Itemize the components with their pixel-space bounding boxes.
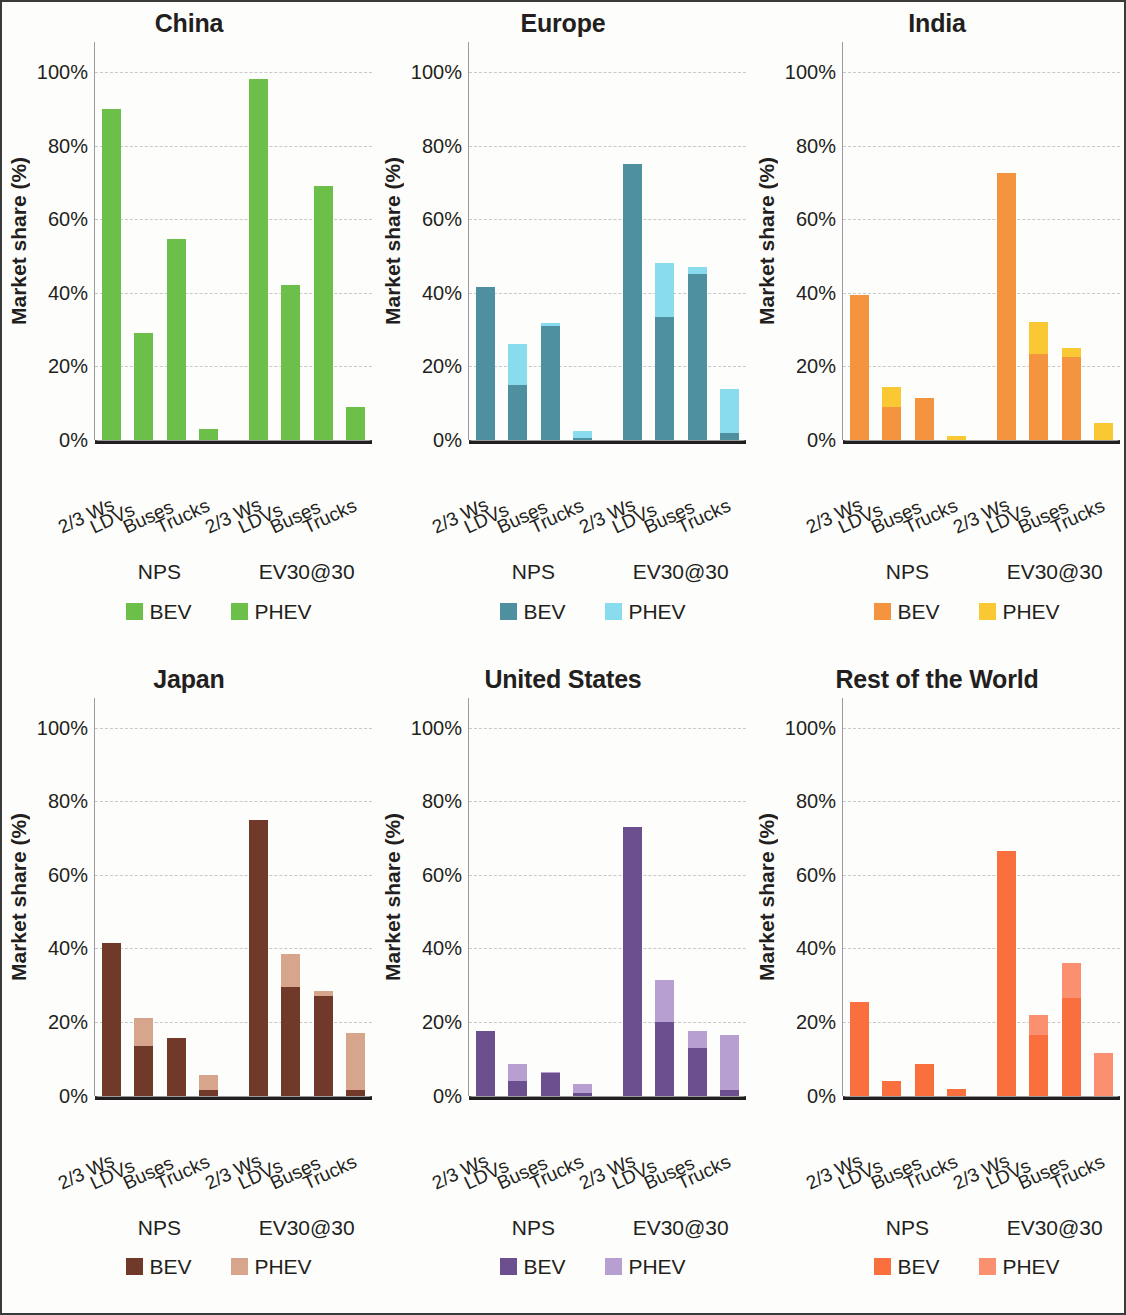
scenario-group-ev3030 <box>242 698 372 1096</box>
bar-segment-bev <box>882 407 901 440</box>
bar-buses[interactable] <box>688 42 707 440</box>
bar-segment-bev <box>102 109 121 440</box>
bar-segment-bev <box>541 326 560 440</box>
legend-swatch-phev-icon <box>605 1258 622 1275</box>
bar-ldvs[interactable] <box>281 42 300 440</box>
y-axis-tick: 80% <box>48 134 88 157</box>
bar-trucks[interactable] <box>720 698 739 1096</box>
y-axis-tick: 0% <box>433 429 462 452</box>
legend-swatch-phev-icon <box>231 1258 248 1275</box>
legend-label: PHEV <box>1002 1256 1059 1277</box>
legend-label: PHEV <box>254 1256 311 1277</box>
chart-title: United States <box>380 664 746 698</box>
bar-ldvs[interactable] <box>508 42 527 440</box>
bar-buses[interactable] <box>541 698 560 1096</box>
bar-2-3-ws[interactable] <box>249 698 268 1096</box>
bar-trucks[interactable] <box>1094 42 1113 440</box>
x-label-group: 2/3 WsLDVsBusesTrucks <box>94 1096 225 1216</box>
y-axis-tick: 100% <box>37 716 88 739</box>
bar-2-3-ws[interactable] <box>476 42 495 440</box>
y-axis-tick: 40% <box>422 937 462 960</box>
bar-2-3-ws[interactable] <box>997 42 1016 440</box>
bar-trucks[interactable] <box>947 42 966 440</box>
bar-trucks[interactable] <box>573 42 592 440</box>
y-axis-tick: 20% <box>796 1010 836 1033</box>
legend-item-bev[interactable]: BEV <box>500 1256 565 1277</box>
legend-swatch-phev-icon <box>979 1258 996 1275</box>
bar-segment-phev <box>947 436 966 440</box>
scenario-group-nps <box>469 698 599 1096</box>
bar-buses[interactable] <box>314 42 333 440</box>
bar-ldvs[interactable] <box>655 42 674 440</box>
bar-buses[interactable] <box>1062 698 1081 1096</box>
bar-2-3-ws[interactable] <box>623 698 642 1096</box>
bar-ldvs[interactable] <box>134 42 153 440</box>
legend-item-bev[interactable]: BEV <box>126 601 191 622</box>
bar-ldvs[interactable] <box>281 698 300 1096</box>
legend-item-bev[interactable]: BEV <box>874 601 939 622</box>
bar-segment-bev <box>346 1090 365 1096</box>
bar-2-3-ws[interactable] <box>850 698 869 1096</box>
bar-buses[interactable] <box>167 42 186 440</box>
bar-ldvs[interactable] <box>1029 42 1048 440</box>
bar-trucks[interactable] <box>720 42 739 440</box>
bar-trucks[interactable] <box>1094 698 1113 1096</box>
plot-canvas <box>94 42 372 440</box>
bar-buses[interactable] <box>167 698 186 1096</box>
bar-series-container <box>843 42 1120 440</box>
bar-trucks[interactable] <box>346 698 365 1096</box>
plot-area: Market share (%)0%20%40%60%80%100% <box>754 42 1120 440</box>
legend-item-bev[interactable]: BEV <box>500 601 565 622</box>
bar-trucks[interactable] <box>346 42 365 440</box>
legend-swatch-bev-icon <box>874 1258 891 1275</box>
bar-segment-phev <box>1029 1015 1048 1035</box>
bar-2-3-ws[interactable] <box>102 42 121 440</box>
y-axis-tick: 0% <box>807 429 836 452</box>
scenario-group-ev3030 <box>242 42 372 440</box>
bar-buses[interactable] <box>1062 42 1081 440</box>
bar-segment-bev <box>915 1064 934 1095</box>
bar-2-3-ws[interactable] <box>249 42 268 440</box>
x-axis-labels: 2/3 WsLDVsBusesTrucks2/3 WsLDVsBusesTruc… <box>842 440 1120 560</box>
legend-item-phev[interactable]: PHEV <box>979 1256 1059 1277</box>
bar-buses[interactable] <box>915 698 934 1096</box>
bar-trucks[interactable] <box>199 698 218 1096</box>
chart-panel-india: IndiaMarket share (%)0%20%40%60%80%100%2… <box>750 2 1124 658</box>
legend-item-phev[interactable]: PHEV <box>231 1256 311 1277</box>
legend-item-phev[interactable]: PHEV <box>605 1256 685 1277</box>
bar-segment-bev <box>134 1046 153 1096</box>
bar-2-3-ws[interactable] <box>476 698 495 1096</box>
bar-buses[interactable] <box>314 698 333 1096</box>
bar-segment-phev <box>346 1033 365 1090</box>
bar-ldvs[interactable] <box>655 698 674 1096</box>
bar-trucks[interactable] <box>573 698 592 1096</box>
legend-item-bev[interactable]: BEV <box>126 1256 191 1277</box>
scenario-group-nps <box>95 698 225 1096</box>
bar-ldvs[interactable] <box>882 42 901 440</box>
bar-buses[interactable] <box>915 42 934 440</box>
bar-segment-bev <box>508 385 527 440</box>
bar-ldvs[interactable] <box>508 698 527 1096</box>
bar-trucks[interactable] <box>947 698 966 1096</box>
bar-ldvs[interactable] <box>882 698 901 1096</box>
chart-legend: BEVPHEV <box>814 1250 1120 1284</box>
bar-buses[interactable] <box>541 42 560 440</box>
y-axis-tick: 20% <box>422 355 462 378</box>
bar-segment-bev <box>1029 354 1048 440</box>
legend-item-phev[interactable]: PHEV <box>231 601 311 622</box>
bar-2-3-ws[interactable] <box>102 698 121 1096</box>
y-axis-tick: 100% <box>37 61 88 84</box>
bar-ldvs[interactable] <box>1029 698 1048 1096</box>
bar-segment-bev <box>720 1090 739 1096</box>
legend-item-bev[interactable]: BEV <box>874 1256 939 1277</box>
legend-item-phev[interactable]: PHEV <box>605 601 685 622</box>
scenario-label: NPS <box>468 1216 599 1250</box>
legend-item-phev[interactable]: PHEV <box>979 601 1059 622</box>
bar-buses[interactable] <box>688 698 707 1096</box>
bar-2-3-ws[interactable] <box>623 42 642 440</box>
bar-2-3-ws[interactable] <box>850 42 869 440</box>
bar-2-3-ws[interactable] <box>997 698 1016 1096</box>
bar-trucks[interactable] <box>199 42 218 440</box>
bar-ldvs[interactable] <box>134 698 153 1096</box>
legend-label: PHEV <box>628 601 685 622</box>
